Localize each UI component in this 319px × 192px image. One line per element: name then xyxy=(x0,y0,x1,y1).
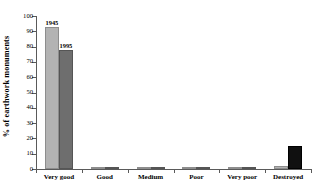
bar[interactable]: 1995 xyxy=(59,50,73,169)
y-axis-tick: 80 xyxy=(36,47,37,48)
y-axis-tick-label: 50 xyxy=(26,88,33,96)
plot-area: 0102030405060708090100 19451995 Very goo… xyxy=(36,16,311,169)
bar-value-label: 1995 xyxy=(60,42,73,49)
x-axis-category-label: Poor xyxy=(174,173,220,182)
x-axis-category-label: Very poor xyxy=(219,173,265,182)
y-axis-tick-label: 60 xyxy=(26,73,33,81)
y-axis-tick: 90 xyxy=(36,31,37,32)
bar-group xyxy=(274,16,302,169)
y-axis-title: % of earthwork monuments xyxy=(0,0,14,172)
y-axis-tick: 40 xyxy=(36,108,37,109)
bar[interactable] xyxy=(137,167,151,169)
bar[interactable] xyxy=(274,166,288,169)
x-axis-category-label: Medium xyxy=(128,173,174,182)
x-axis-category-label: Destroyed xyxy=(265,173,311,182)
y-axis-tick-label: 80 xyxy=(26,42,33,50)
y-axis-tick-label: 0 xyxy=(30,165,33,173)
y-axis-tick-label: 10 xyxy=(26,149,33,157)
bar[interactable] xyxy=(242,167,256,169)
bar[interactable] xyxy=(288,146,302,169)
bar[interactable] xyxy=(182,167,196,169)
bar-group: 19451995 xyxy=(45,16,73,169)
x-axis-category-label: Good xyxy=(82,173,128,182)
bar-group xyxy=(182,16,210,169)
bar[interactable]: 1945 xyxy=(45,27,59,169)
y-axis-tick: 100 xyxy=(36,16,37,17)
bar[interactable] xyxy=(196,167,210,169)
y-axis-tick: 30 xyxy=(36,123,37,124)
y-axis-title-text: % of earthwork monuments xyxy=(3,35,12,136)
bar-value-label: 1945 xyxy=(46,19,59,26)
bar[interactable] xyxy=(228,167,242,169)
y-axis-tick: 50 xyxy=(36,93,37,94)
bar-group xyxy=(137,16,165,169)
bar[interactable] xyxy=(151,167,165,169)
y-axis-tick: 10 xyxy=(36,154,37,155)
y-axis-tick-label: 100 xyxy=(23,12,33,20)
y-axis-tick: 70 xyxy=(36,62,37,63)
y-axis-tick-label: 40 xyxy=(26,103,33,111)
y-axis-tick-label: 90 xyxy=(26,27,33,35)
y-axis-tick-label: 70 xyxy=(26,57,33,65)
bar-group xyxy=(91,16,119,169)
bar-group xyxy=(228,16,256,169)
y-axis-tick: 20 xyxy=(36,138,37,139)
y-axis-tick: 60 xyxy=(36,77,37,78)
bar[interactable] xyxy=(91,167,105,169)
x-axis-category-label: Very good xyxy=(36,173,82,182)
x-axis-tick-mark xyxy=(311,169,312,173)
bar-chart: % of earthwork monuments 010203040506070… xyxy=(0,0,319,192)
y-axis-tick-label: 20 xyxy=(26,134,33,142)
y-axis-tick-label: 30 xyxy=(26,119,33,127)
bar[interactable] xyxy=(105,167,119,169)
